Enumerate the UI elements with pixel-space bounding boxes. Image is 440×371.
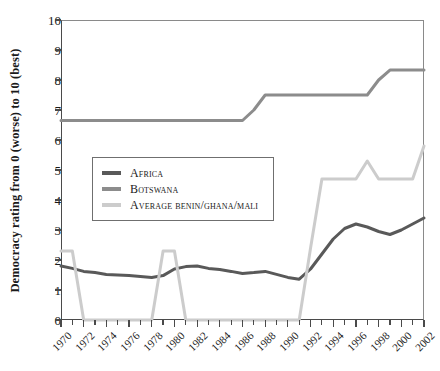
x-tick-label: 1994 [317, 330, 346, 359]
series-line-africa [61, 218, 424, 279]
x-tick-mark [208, 320, 209, 325]
x-tick-label: 1978 [136, 330, 165, 359]
x-tick-mark [265, 320, 266, 327]
x-tick-mark [106, 320, 107, 327]
x-tick-mark [242, 320, 243, 327]
x-tick-mark [344, 320, 345, 325]
x-tick-label: 1998 [362, 330, 391, 359]
x-tick-mark [117, 320, 118, 325]
x-tick-label: 1974 [90, 330, 119, 359]
legend-label-average-benin-ghana-mali: Average Benin/Ghana/Mali [130, 198, 258, 213]
x-tick-label: 1976 [113, 330, 142, 359]
x-tick-mark [197, 320, 198, 327]
series-line-botswana [61, 70, 424, 120]
legend-swatch-botswana [102, 187, 121, 191]
x-tick-mark [174, 320, 175, 327]
x-tick-mark [231, 320, 232, 325]
x-tick-label: 1982 [181, 330, 210, 359]
y-axis-ticks: 012345678910 [30, 0, 61, 371]
x-tick-mark [333, 320, 334, 327]
x-tick-mark [253, 320, 254, 325]
x-tick-mark [367, 320, 368, 325]
x-tick-label: 1984 [204, 330, 233, 359]
x-tick-mark [83, 320, 84, 327]
x-tick-mark [423, 320, 424, 327]
x-tick-label: 1986 [226, 330, 255, 359]
x-tick-mark [72, 320, 73, 325]
x-tick-label: 1996 [340, 330, 369, 359]
x-tick-mark [401, 320, 402, 327]
x-tick-mark [128, 320, 129, 327]
x-tick-label: 1992 [294, 330, 323, 359]
x-tick-label: 1990 [272, 330, 301, 359]
x-tick-label: 1972 [67, 330, 96, 359]
x-tick-mark [287, 320, 288, 327]
x-tick-mark [185, 320, 186, 325]
chart-legend: Africa Botswana Average Benin/Ghana/Mali [92, 157, 274, 221]
x-tick-label: 1980 [158, 330, 187, 359]
legend-label-botswana: Botswana [130, 182, 178, 197]
x-tick-mark [355, 320, 356, 327]
x-tick-mark [299, 320, 300, 325]
x-tick-mark [389, 320, 390, 325]
x-tick-mark [321, 320, 322, 325]
x-tick-mark [162, 320, 163, 325]
legend-label-africa: Africa [130, 166, 163, 181]
legend-swatch-africa [102, 171, 121, 175]
legend-item-average-benin-ghana-mali: Average Benin/Ghana/Mali [102, 197, 264, 213]
x-tick-mark [219, 320, 220, 327]
y-axis-title: Democracy rating from 0 (worse) to 10 (b… [0, 0, 30, 340]
x-tick-mark [412, 320, 413, 325]
x-tick-mark [60, 320, 61, 327]
y-axis-title-text: Democracy rating from 0 (worse) to 10 (b… [8, 48, 23, 292]
x-tick-label: 2000 [385, 330, 414, 359]
x-tick-mark [94, 320, 95, 325]
legend-item-botswana: Botswana [102, 181, 264, 197]
legend-swatch-average-benin-ghana-mali [102, 203, 121, 207]
legend-item-africa: Africa [102, 165, 264, 181]
x-tick-mark [151, 320, 152, 327]
x-tick-label: 2002 [408, 330, 437, 359]
x-tick-mark [378, 320, 379, 327]
x-tick-mark [310, 320, 311, 327]
x-tick-mark [140, 320, 141, 325]
x-tick-mark [276, 320, 277, 325]
democracy-rating-chart: Democracy rating from 0 (worse) to 10 (b… [0, 0, 440, 371]
